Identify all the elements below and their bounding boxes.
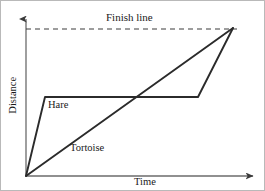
chart-plot-area [1, 1, 265, 191]
tortoise-series-label: Tortoise [70, 143, 104, 154]
y-axis-label: Distance [8, 69, 19, 121]
hare-and-tortoise-chart: Finish line Hare Tortoise Time Distance [0, 0, 265, 191]
hare-series-label: Hare [48, 100, 68, 111]
finish-line-label: Finish line [106, 12, 153, 23]
x-axis-label: Time [134, 177, 156, 188]
